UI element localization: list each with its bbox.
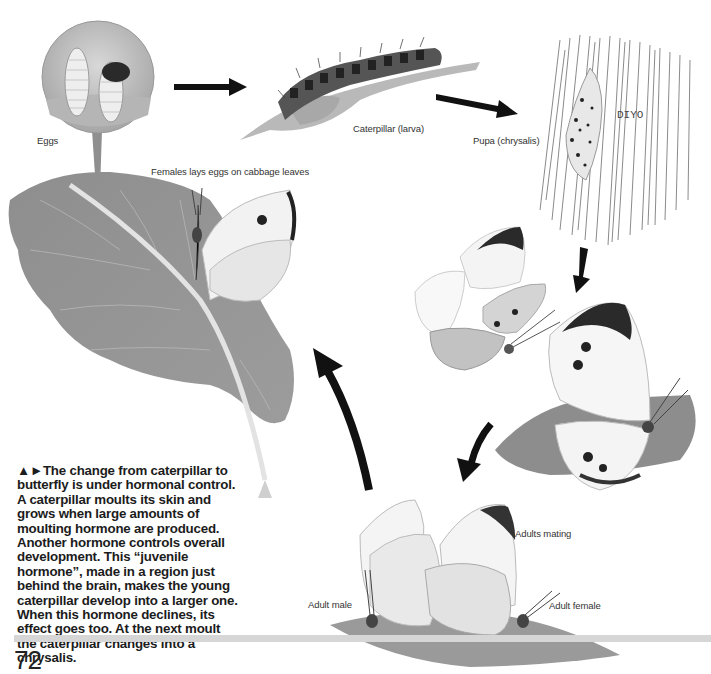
label-adult-male: Adult male	[308, 599, 352, 610]
label-adults-mating: Adults mating	[515, 528, 571, 539]
arrow-icon	[436, 92, 521, 122]
pupa-illustration: DIYO	[530, 30, 710, 250]
label-female-lays: Females lays eggs on cabbage leaves	[151, 166, 309, 177]
page-number: 72	[14, 645, 41, 674]
label-pupa: Pupa (chrysalis)	[473, 135, 540, 146]
footer-rule	[14, 635, 711, 642]
label-adult-female: Adult female	[549, 600, 601, 611]
female-butterfly-illustration	[180, 180, 305, 320]
arrow-icon	[570, 247, 595, 295]
curved-arrow-icon	[455, 420, 495, 485]
arrow-icon	[174, 78, 249, 98]
mating-pair-illustration	[320, 495, 640, 670]
caption-markers: ▲►	[17, 463, 43, 478]
curved-arrow-icon	[305, 340, 375, 495]
label-caterpillar: Caterpillar (larva)	[353, 123, 424, 134]
spread-butterfly-illustration	[490, 300, 705, 495]
pupa-inscription: DIYO	[617, 109, 644, 121]
label-eggs: Eggs	[37, 135, 58, 146]
